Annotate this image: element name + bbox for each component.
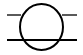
circle-line-symbol-icon xyxy=(0,0,83,55)
diagram-canvas xyxy=(0,0,83,55)
circle-shape xyxy=(20,4,63,50)
